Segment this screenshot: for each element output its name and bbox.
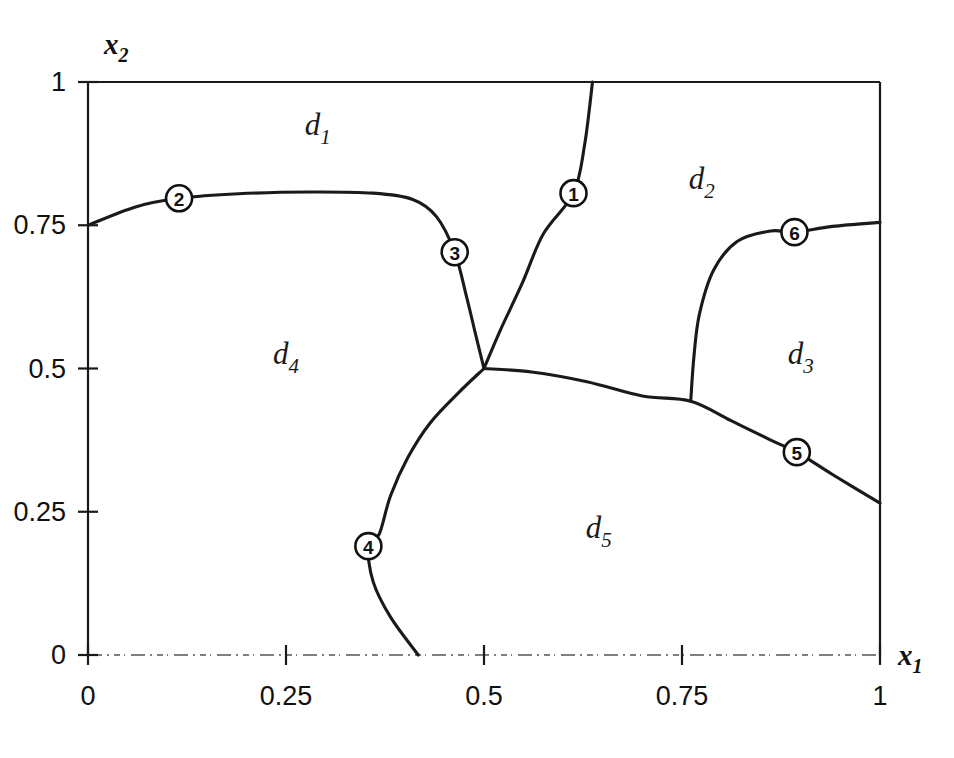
boundary-marker-label-2: 2	[174, 189, 185, 210]
y-axis-title: x2	[103, 28, 129, 66]
y-tick-label: 0.5	[28, 354, 66, 384]
x-tick-label: 0.25	[260, 681, 313, 711]
boundary-marker-label-6: 6	[789, 223, 800, 244]
y-tick-label: 0.75	[13, 210, 66, 240]
region-boundary-b-d2-d3	[691, 222, 880, 401]
region-partition-figure: 00.250.50.75100.250.50.751x2x1d1d2d3d4d5…	[0, 0, 954, 758]
y-tick-label: 0.25	[13, 497, 66, 527]
x-tick-label: 0.5	[465, 681, 503, 711]
region-boundary-b-d2d3-d5	[484, 369, 880, 504]
x-axis-title: x1	[897, 639, 923, 677]
x-tick-label: 0.75	[656, 681, 709, 711]
boundary-marker-label-4: 4	[363, 537, 374, 558]
boundary-marker-label-5: 5	[792, 443, 803, 464]
x-tick-label: 0	[80, 681, 95, 711]
region-boundary-b-d1-d2	[484, 82, 593, 369]
region-label-d3: d3	[788, 336, 814, 378]
boundary-marker-label-3: 3	[449, 243, 460, 264]
region-label-d4: d4	[273, 336, 300, 378]
region-label-d1: d1	[305, 107, 331, 149]
region-label-d5: d5	[586, 510, 612, 552]
boundary-marker-label-1: 1	[568, 184, 579, 205]
y-tick-label: 0	[51, 640, 66, 670]
y-tick-label: 1	[51, 67, 66, 97]
region-boundary-b-d4-d5	[368, 369, 484, 656]
x-tick-label: 1	[872, 681, 887, 711]
region-label-d2: d2	[689, 161, 716, 203]
